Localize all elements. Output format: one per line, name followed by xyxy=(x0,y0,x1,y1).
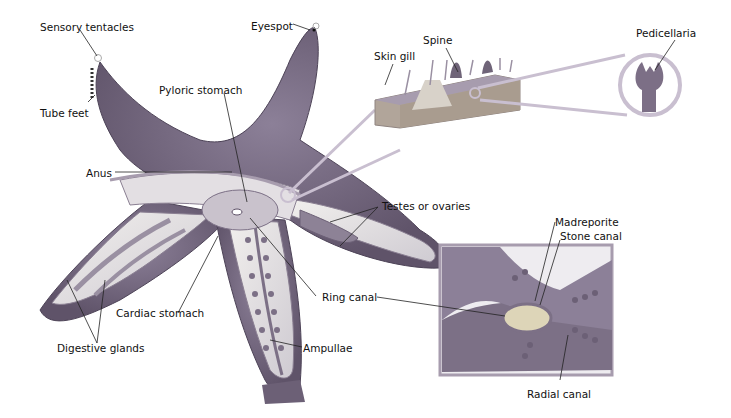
label-pyloric-stomach: Pyloric stomach xyxy=(159,84,242,96)
label-tube-feet: Tube feet xyxy=(40,107,89,119)
label-ring-canal: Ring canal xyxy=(322,291,377,303)
label-madreporite: Madreporite xyxy=(555,216,619,228)
label-digestive-glands: Digestive glands xyxy=(57,342,144,354)
label-spine: Spine xyxy=(423,34,452,46)
label-testes-or-ovaries: Testes or ovaries xyxy=(382,200,470,212)
label-eyespot: Eyespot xyxy=(251,20,293,32)
label-pedicellaria: Pedicellaria xyxy=(636,27,696,39)
label-anus: Anus xyxy=(86,167,112,179)
starfish-anatomy-diagram: Sensory tentacles Tube feet Eyespot Pylo… xyxy=(0,0,731,418)
label-stone-canal: Stone canal xyxy=(560,230,622,242)
label-cardiac-stomach: Cardiac stomach xyxy=(116,307,204,319)
label-ampullae: Ampullae xyxy=(303,342,352,354)
label-radial-canal: Radial canal xyxy=(527,388,591,400)
label-sensory-tentacles: Sensory tentacles xyxy=(40,21,134,33)
diagram-illustration xyxy=(0,0,731,418)
label-skin-gill: Skin gill xyxy=(374,50,415,62)
